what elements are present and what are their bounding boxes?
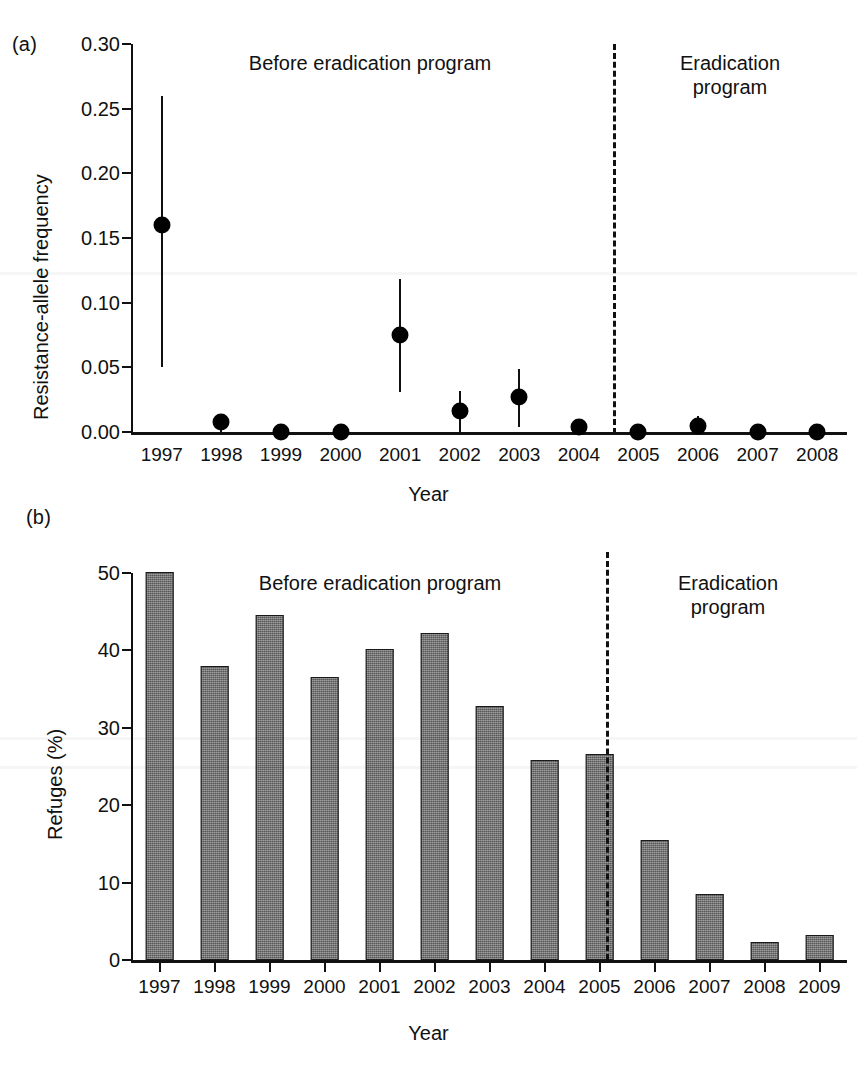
panel-b-x-tick-label: 2006	[633, 976, 675, 998]
panel-b-x-tick-label: 2004	[523, 976, 565, 998]
panel-b-x-tick-label: 2009	[798, 976, 840, 998]
panel-b-x-tick-label: 2005	[578, 976, 620, 998]
panel-b-y-tick-label: 40	[2, 639, 120, 662]
panel-b-y-tick	[122, 727, 131, 729]
panel-b-x-tick-label: 1999	[248, 976, 290, 998]
panel-b-bar	[365, 649, 394, 960]
panel-b-y-tick	[122, 804, 131, 806]
panel-b-bar	[475, 706, 504, 960]
panel-b-x-tick-label: 1997	[138, 976, 180, 998]
panel-b-x-tick	[489, 963, 491, 972]
panel-b-annotation-before: Before eradication program	[215, 572, 545, 596]
panel-b-bar	[585, 754, 614, 960]
panel-b-y-tick-label: 0	[2, 949, 120, 972]
scan-artifact-line	[0, 737, 857, 740]
panel-b-x-tick-label: 2001	[358, 976, 400, 998]
panel-b-label: (b)	[26, 506, 51, 529]
panel-b-x-tick	[324, 963, 326, 972]
panel-b-x-tick	[544, 963, 546, 972]
panel-b-x-tick	[159, 963, 161, 972]
figure-root: (a) Resistance-allele frequency 0.000.05…	[0, 0, 857, 1070]
panel-b-x-tick-label: 2003	[468, 976, 510, 998]
panel-b-y-axis-title: Refuges (%)	[44, 729, 67, 840]
panel-b-x-tick	[269, 963, 271, 972]
panel-b-x-tick	[709, 963, 711, 972]
panel-b-x-tick	[764, 963, 766, 972]
panel-b-annotation-eradication: Eradication program	[638, 572, 818, 619]
panel-b-x-tick	[819, 963, 821, 972]
panel-b-x-tick-label: 2008	[743, 976, 785, 998]
panel-b-bar	[805, 935, 834, 960]
panel-b-eradication-divider	[606, 552, 609, 960]
panel-b-y-tick-label: 50	[2, 562, 120, 585]
panel-b-x-tick	[599, 963, 601, 972]
panel-b-y-tick	[122, 649, 131, 651]
panel-b-bar	[530, 760, 559, 960]
panel-b-x-tick	[214, 963, 216, 972]
panel-b-bar	[200, 666, 229, 960]
panel-b-y-tick	[122, 959, 131, 961]
panel-b-bar	[310, 677, 339, 960]
panel-b-bar	[420, 633, 449, 960]
panel-b-x-tick	[379, 963, 381, 972]
panel-b-y-tick	[122, 882, 131, 884]
panel-b-x-tick-label: 2000	[303, 976, 345, 998]
panel-b-bar	[750, 942, 779, 960]
panel-b-bar	[640, 840, 669, 960]
panel-b-bar	[255, 615, 284, 960]
panel-b-x-tick	[434, 963, 436, 972]
panel-b-bar-chart: (b) Refuges (%) 01020304050 199719981999…	[0, 0, 857, 1070]
panel-b-y-tick-label: 30	[2, 716, 120, 739]
panel-b-y-tick	[122, 572, 131, 574]
panel-b-x-axis-title: Year	[0, 1022, 857, 1045]
panel-b-x-tick-label: 2007	[688, 976, 730, 998]
panel-b-x-tick	[654, 963, 656, 972]
panel-b-y-tick-label: 10	[2, 871, 120, 894]
panel-b-y-tick-label: 20	[2, 794, 120, 817]
panel-b-bar	[695, 894, 724, 960]
scan-artifact-line	[0, 766, 857, 769]
panel-b-x-tick-label: 1998	[193, 976, 235, 998]
panel-b-x-tick-label: 2002	[413, 976, 455, 998]
scan-artifact-line	[0, 272, 857, 275]
